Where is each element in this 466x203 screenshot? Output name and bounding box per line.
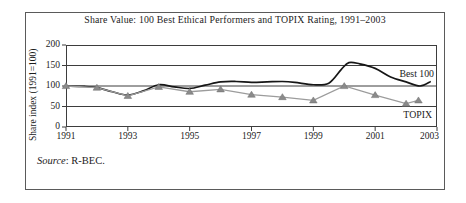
y-tick-label: 0: [20, 121, 60, 131]
x-tick-label: 1993: [113, 131, 143, 141]
figure-canvas: Share Value: 100 Best Ethical Performers…: [0, 0, 466, 203]
x-tick-label: 2001: [360, 131, 390, 141]
chart-title: Share Value: 100 Best Ethical Performers…: [25, 14, 445, 25]
x-tick-label: 1995: [175, 131, 205, 141]
source-note: Source: R-BEC.: [37, 154, 105, 168]
series-label-best-100: Best 100: [399, 68, 434, 79]
x-tick-label: 2003: [409, 131, 439, 141]
y-tick-label: 150: [20, 60, 60, 70]
plot-area: Best 100 TOPIX 1991199319951997199920012…: [66, 45, 437, 127]
x-tick-label: 1991: [51, 131, 81, 141]
y-tick-label: 200: [20, 39, 60, 49]
plot-svg: [66, 45, 437, 127]
x-tick-label: 1999: [298, 131, 328, 141]
y-tick-label: 50: [20, 101, 60, 111]
topix-marker: [415, 97, 423, 103]
source-prefix: Source: [37, 155, 66, 166]
source-text: : R-BEC.: [66, 155, 105, 166]
series-line-best-100: [66, 62, 431, 95]
series-label-topix: TOPIX: [403, 109, 432, 120]
x-tick-label: 1997: [237, 131, 267, 141]
y-axis-title: Share index (1991=100): [27, 38, 40, 152]
y-tick-label: 100: [20, 80, 60, 90]
series-line-topix: [66, 86, 418, 104]
